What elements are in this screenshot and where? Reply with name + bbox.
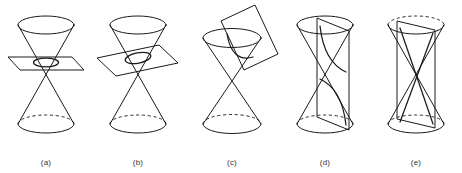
- cutting-plane-steep: [221, 5, 278, 70]
- conic-section-hyperbola-lower-branch: [320, 79, 346, 125]
- hyperbola-diagram: [280, 0, 370, 150]
- upper-rim-ellipse: [110, 16, 166, 34]
- panel-caption-c: (c): [184, 158, 280, 167]
- cutting-plane-horizontal: [8, 57, 84, 70]
- circle-diagram: [0, 0, 92, 150]
- panel-caption-b: (b): [92, 158, 184, 167]
- cutting-plane-tilted: [97, 45, 178, 76]
- panel-intersecting-lines: (e): [370, 0, 462, 173]
- lower-base-front-arc: [203, 124, 261, 134]
- parabola-diagram: [184, 0, 280, 150]
- intersecting-lines-diagram: [370, 0, 462, 150]
- upper-rim-ellipse: [297, 16, 353, 34]
- conic-section-hyperbola-upper-branch: [320, 26, 346, 72]
- upper-rim-ellipse: [18, 16, 74, 34]
- lower-base-front-arc: [110, 124, 166, 133]
- lower-base-front-arc: [388, 124, 444, 133]
- lower-base-hidden-arc: [388, 115, 444, 124]
- panel-hyperbola: (d): [280, 0, 370, 173]
- conic-sections-figure: (a) (b) (c): [0, 0, 462, 173]
- lower-base-hidden-arc: [18, 115, 74, 124]
- conic-section-circle: [34, 58, 59, 67]
- panel-ellipse: (b): [92, 0, 184, 173]
- panel-caption-e: (e): [370, 158, 462, 167]
- ellipse-diagram: [92, 0, 184, 150]
- lower-base-front-arc: [18, 124, 74, 133]
- panel-circle: (a): [0, 0, 92, 173]
- panel-parabola: (c): [184, 0, 280, 173]
- upper-rim-hidden-arc: [388, 16, 444, 25]
- upper-rim-front-arc: [388, 25, 444, 34]
- panel-caption-d: (d): [280, 158, 370, 167]
- lower-base-hidden-arc: [110, 115, 166, 124]
- lower-base-hidden-arc: [203, 115, 261, 125]
- panel-caption-a: (a): [0, 158, 92, 167]
